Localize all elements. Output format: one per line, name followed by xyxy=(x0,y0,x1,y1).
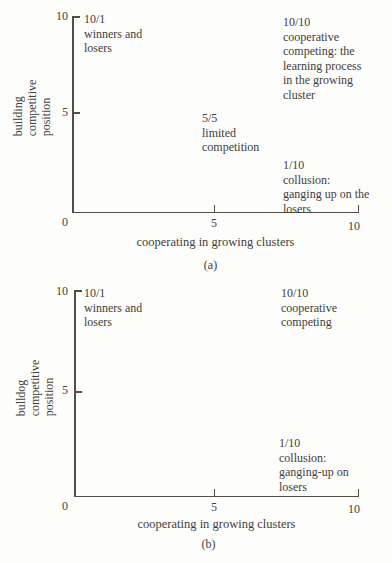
x-axis-title: cooperating in growing clusters xyxy=(74,517,359,531)
y-tick-10 xyxy=(75,290,82,292)
annotation-cooperative-competing: 10/10cooperativecompeting xyxy=(281,286,337,330)
y-axis-title: bulldogcompetitiveposition xyxy=(14,360,56,417)
y-tick-label-10: 10 xyxy=(44,285,68,298)
y-axis-line xyxy=(74,290,76,497)
x-tick-5 xyxy=(214,489,216,496)
x-axis-line xyxy=(74,496,359,498)
origin-label: 0 xyxy=(58,500,72,513)
x-tick-label-5: 5 xyxy=(206,501,222,514)
figure: 10 5 0 5 10 buildingcompetitiveposition … xyxy=(0,0,392,563)
y-tick-5 xyxy=(75,391,82,393)
subfigure-caption: (b) xyxy=(60,537,357,552)
chart-b: 10 5 0 5 10 bulldogcompetitiveposition c… xyxy=(0,0,392,563)
annotation-winners-and-losers: 10/1winners andlosers xyxy=(84,286,142,330)
x-tick-label-10: 10 xyxy=(343,503,365,516)
x-tick-10 xyxy=(358,489,360,496)
annotation-collusion: 1/10collusion:ganging-up onlosers xyxy=(279,436,349,494)
